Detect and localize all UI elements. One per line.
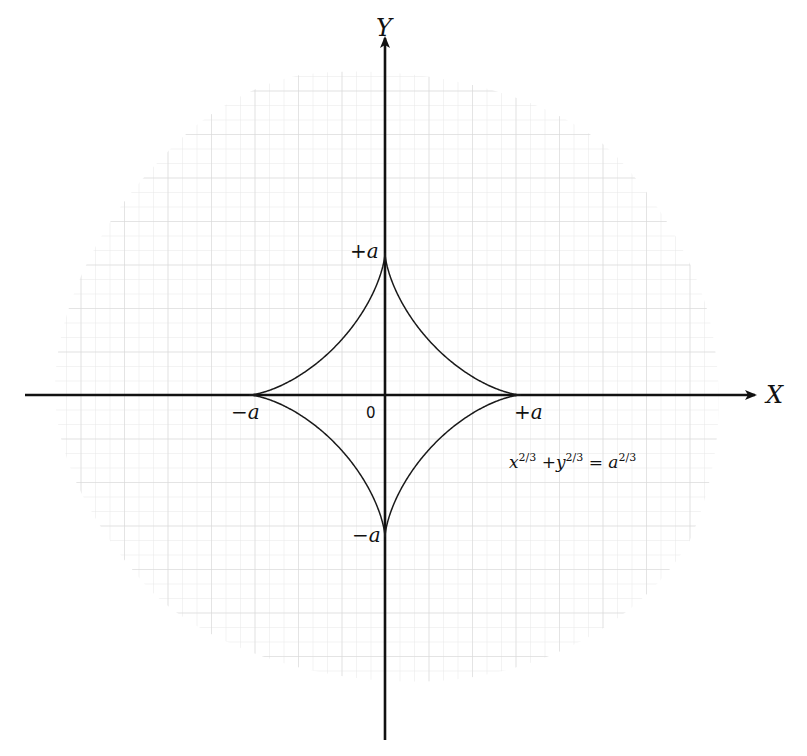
- tick-label-y-positive: +a: [350, 239, 379, 263]
- tick-label-x-negative: −a: [231, 400, 260, 424]
- eq-plus: +: [542, 452, 556, 472]
- eq-a: a: [608, 452, 618, 472]
- diagram-canvas: [0, 0, 807, 756]
- x-axis-label: X: [766, 381, 783, 409]
- eq-x: x: [509, 452, 519, 472]
- eq-y: y: [556, 452, 566, 472]
- eq-equals: =: [589, 452, 603, 472]
- tick-label-y-negative: −a: [352, 523, 381, 547]
- eq-y-exponent: 2/3: [566, 451, 584, 464]
- eq-a-exponent: 2/3: [618, 451, 636, 464]
- astroid-equation: x2/3 +y2/3 = a2/3: [509, 451, 636, 472]
- tick-label-x-positive: +a: [514, 400, 543, 424]
- origin-label: 0: [366, 404, 376, 422]
- graph-paper-grid: [0, 0, 807, 756]
- y-axis-label: Y: [376, 14, 392, 42]
- astroid-diagram: Y X +a −a −a +a 0 x2/3 +y2/3 = a2/3: [0, 0, 807, 756]
- eq-x-exponent: 2/3: [519, 451, 537, 464]
